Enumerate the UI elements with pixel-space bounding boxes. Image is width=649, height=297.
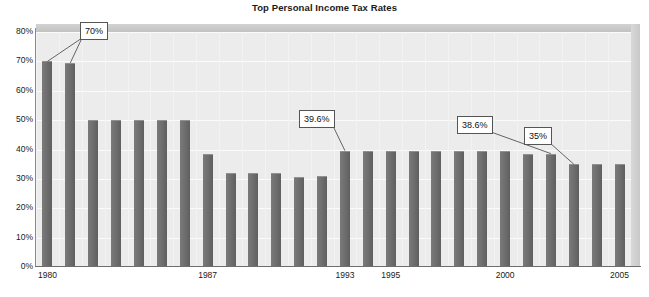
x-axis-tick-label: 1987 xyxy=(198,270,217,280)
gridline-vertical xyxy=(242,32,243,267)
gridline-vertical xyxy=(59,32,60,267)
gridline-vertical xyxy=(219,32,220,267)
gridline-vertical xyxy=(425,32,426,267)
bar xyxy=(363,151,373,267)
y-axis-line xyxy=(35,28,36,267)
bar xyxy=(42,61,52,267)
bar xyxy=(271,173,281,267)
gridline-vertical xyxy=(539,32,540,267)
gridline-vertical xyxy=(196,32,197,267)
plot-right-face xyxy=(631,24,640,267)
gridline-vertical xyxy=(562,32,563,267)
gridline-vertical xyxy=(402,32,403,267)
plot-top-face xyxy=(36,24,640,32)
bar xyxy=(134,120,144,267)
chart-title: Top Personal Income Tax Rates xyxy=(0,2,649,13)
y-axis-tick-label: 10% xyxy=(1,232,33,242)
gridline-vertical xyxy=(608,32,609,267)
y-axis-tick-label: 60% xyxy=(1,85,33,95)
bar xyxy=(523,154,533,267)
x-axis-line xyxy=(35,266,641,267)
gridline-vertical xyxy=(82,32,83,267)
bar xyxy=(569,164,579,267)
bar xyxy=(500,151,510,267)
gridline-vertical xyxy=(128,32,129,267)
bar xyxy=(615,164,625,267)
gridline-vertical xyxy=(517,32,518,267)
y-axis-tick-labels: 80%70%60%50%40%30%20%10%0% xyxy=(0,0,33,297)
y-axis-tick-label: 40% xyxy=(1,144,33,154)
gridline-vertical xyxy=(288,32,289,267)
y-axis-tick-label: 50% xyxy=(1,114,33,124)
bar xyxy=(65,63,75,267)
gridline-vertical xyxy=(494,32,495,267)
value-callout: 70% xyxy=(80,22,108,40)
gridline-vertical xyxy=(585,32,586,267)
bar xyxy=(340,151,350,267)
bar xyxy=(317,176,327,267)
gridline-vertical xyxy=(448,32,449,267)
value-callout: 38.6% xyxy=(457,116,493,134)
bar xyxy=(226,173,236,267)
y-axis-tick-label: 30% xyxy=(1,173,33,183)
bar xyxy=(477,151,487,267)
bar xyxy=(454,151,464,267)
y-axis-tick-label: 0% xyxy=(1,261,33,271)
plot-3d-shell xyxy=(36,24,640,267)
y-axis-tick-label: 20% xyxy=(1,202,33,212)
y-axis-tick-label: 80% xyxy=(1,26,33,36)
bar xyxy=(248,173,258,267)
x-axis-tick-label: 1980 xyxy=(38,270,57,280)
gridline-vertical xyxy=(150,32,151,267)
gridline-vertical xyxy=(265,32,266,267)
gridline-vertical xyxy=(105,32,106,267)
bar xyxy=(294,177,304,267)
bar xyxy=(409,151,419,267)
gridline-vertical xyxy=(356,32,357,267)
bar xyxy=(157,120,167,267)
value-callout: 39.6% xyxy=(299,110,335,128)
x-axis-tick-label: 1993 xyxy=(335,270,354,280)
bar xyxy=(203,154,213,267)
bar xyxy=(546,154,556,267)
chart-container: Top Personal Income Tax Rates 80%70%60%5… xyxy=(0,0,649,297)
gridline-vertical xyxy=(36,32,37,267)
x-axis-tick-label: 1995 xyxy=(381,270,400,280)
bar xyxy=(88,120,98,267)
value-callout: 35% xyxy=(524,127,552,145)
gridline-vertical xyxy=(379,32,380,267)
bar xyxy=(431,151,441,267)
gridline-vertical xyxy=(334,32,335,267)
plot-area xyxy=(36,32,631,267)
gridline-vertical xyxy=(173,32,174,267)
x-axis-tick-label: 2000 xyxy=(496,270,515,280)
bar xyxy=(111,120,121,267)
x-axis-tick-label: 2005 xyxy=(610,270,629,280)
gridline-vertical xyxy=(311,32,312,267)
gridline-vertical xyxy=(471,32,472,267)
y-axis-tick-label: 70% xyxy=(1,55,33,65)
bar xyxy=(386,151,396,267)
bar xyxy=(180,120,190,267)
bar xyxy=(592,164,602,267)
